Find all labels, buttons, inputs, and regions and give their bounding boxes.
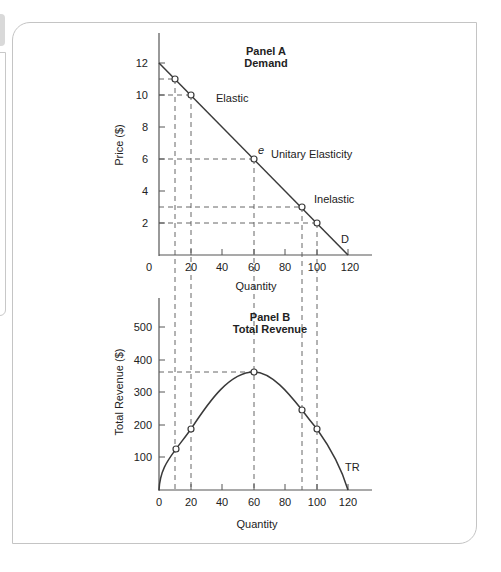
- panel-b-ytick-100: 100: [134, 451, 152, 463]
- panel-a-xtick-40: 40: [216, 261, 228, 273]
- panel-b-xtick-80: 80: [279, 496, 291, 508]
- panel-a-xlabel: Quantity: [236, 280, 277, 292]
- panel-b-xtick-20: 20: [185, 496, 197, 508]
- panel-b-ytick-200: 200: [134, 419, 152, 431]
- panel-a-ytick-12: 12: [136, 57, 148, 69]
- panel-a-ytick-4: 4: [142, 185, 148, 197]
- panel-b-xtick-40: 40: [216, 496, 228, 508]
- label-tr: TR: [345, 461, 360, 473]
- panel-a-subtitle: Demand: [244, 57, 287, 69]
- panel-a-xtick-60: 60: [248, 261, 260, 273]
- panel-b-ytick-500: 500: [134, 321, 152, 333]
- panel-b-ticks: [159, 327, 348, 490]
- panel-b-xtick-60: 60: [248, 496, 260, 508]
- panel-b-ylabel: Total Revenue ($): [113, 349, 125, 436]
- label-demand-d: D: [341, 233, 349, 245]
- panel-a-ylabel: Price ($): [113, 124, 125, 166]
- panel-a-xtick-80: 80: [279, 261, 291, 273]
- label-inelastic: Inelastic: [314, 193, 355, 205]
- panel-b-points: [173, 369, 320, 452]
- label-e: e: [258, 144, 264, 156]
- panel-b-xtick-120: 120: [339, 496, 357, 508]
- panel-a-xtick-120: 120: [341, 261, 359, 273]
- panel-a-ytick-6: 6: [142, 153, 148, 165]
- panel-b-xlabel: Quantity: [237, 518, 278, 530]
- panel-a-ytick-10: 10: [136, 89, 148, 101]
- panel-b-subtitle: Total Revenue: [233, 323, 307, 335]
- panel-b-xtick-100: 100: [308, 496, 326, 508]
- panel-b-xtick-0: 0: [156, 496, 162, 508]
- panel-a-origin: 0: [146, 261, 152, 273]
- panel-b: 100 200 300 400 500 0 20 40 60 80 100 12…: [113, 298, 372, 530]
- panel-b-ytick-300: 300: [134, 386, 152, 398]
- panel-a-ytick-2: 2: [142, 217, 148, 229]
- label-elastic: Elastic: [216, 92, 249, 104]
- panel-b-ytick-400: 400: [134, 354, 152, 366]
- panel-a-xtick-100: 100: [308, 261, 326, 273]
- elasticity-chart: 2 4 6 8 10 12 0 20 40 60 80 100 120 Quan…: [0, 0, 501, 572]
- panel-a-ytick-8: 8: [142, 121, 148, 133]
- label-unitary-elasticity: Unitary Elasticity: [271, 148, 353, 160]
- panel-a-title: Panel A: [246, 45, 286, 57]
- panel-b-title: Panel B: [250, 311, 290, 323]
- panel-a-xtick-20: 20: [185, 261, 197, 273]
